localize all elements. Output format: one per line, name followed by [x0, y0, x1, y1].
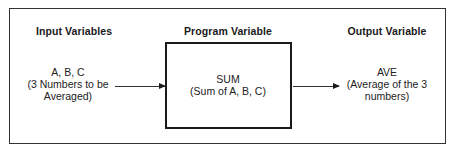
program-line-1: SUM	[190, 73, 266, 85]
input-line-3: Averaged)	[27, 90, 108, 102]
input-to-program-arrow	[115, 86, 165, 87]
input-variables-description: A, B, C (3 Numbers to be Averaged)	[27, 66, 108, 102]
input-variables-heading: Input Variables	[36, 25, 112, 37]
output-line-2: (Average of the 3	[347, 78, 427, 90]
output-variable-description: AVE (Average of the 3 numbers)	[347, 66, 427, 102]
input-line-2: (3 Numbers to be	[27, 78, 108, 90]
output-variable-heading: Output Variable	[347, 25, 426, 37]
program-variable-heading: Program Variable	[184, 25, 272, 37]
output-line-1: AVE	[347, 66, 427, 78]
output-line-3: numbers)	[347, 90, 427, 102]
program-variable-description: SUM (Sum of A, B, C)	[190, 73, 266, 97]
input-line-1: A, B, C	[27, 66, 108, 78]
program-line-2: (Sum of A, B, C)	[190, 85, 266, 97]
arrowhead-icon	[333, 83, 340, 89]
program-to-output-arrow	[293, 86, 339, 87]
